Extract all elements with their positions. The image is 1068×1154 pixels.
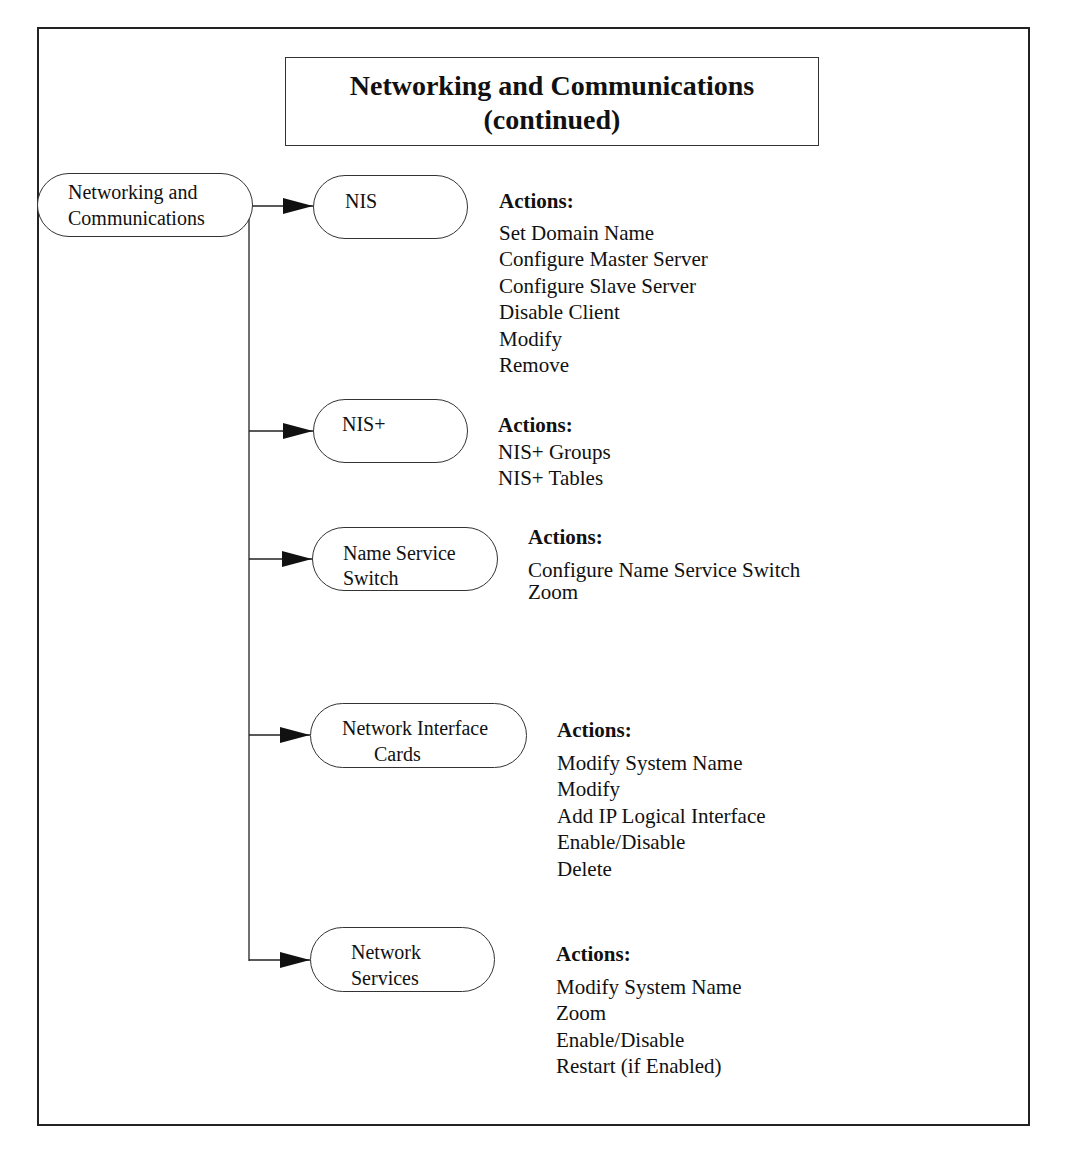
node-label-line-1: Network (351, 940, 421, 965)
action-item: Disable Client (499, 299, 708, 326)
node-label-line-2: Communications (68, 206, 205, 231)
node-networking-and-communications[interactable]: Networking and Communications (37, 173, 253, 237)
action-item: Restart (if Enabled) (556, 1053, 741, 1080)
node-label-line-2: Cards (374, 742, 421, 767)
node-label: NIS (345, 189, 377, 214)
node-label-line-1: Network Interface (342, 716, 488, 741)
node-label-line-1: Name Service (343, 541, 456, 566)
node-name-service-switch[interactable]: Name Service Switch (312, 527, 498, 591)
node-label-line-2: Services (351, 966, 419, 991)
actions-header: Actions: (557, 717, 766, 744)
node-label-line-1: Networking and (68, 180, 197, 205)
actions-header: Actions: (556, 941, 741, 968)
action-item: Add IP Logical Interface (557, 803, 766, 830)
actions-header: Actions: (499, 188, 708, 215)
action-item: Set Domain Name (499, 220, 708, 247)
action-item: Configure Slave Server (499, 273, 708, 300)
action-item: Configure Master Server (499, 246, 708, 273)
action-item: Enable/Disable (557, 829, 766, 856)
node-label-line-2: Switch (343, 566, 399, 591)
actions-nis-plus: Actions: NIS+ Groups NIS+ Tables (498, 412, 611, 492)
actions-name-service-switch: Actions: Configure Name Service Switch Z… (528, 524, 800, 606)
actions-nis: Actions: Set Domain Name Configure Maste… (499, 188, 708, 379)
node-label: NIS+ (342, 412, 386, 437)
action-item: Enable/Disable (556, 1027, 741, 1054)
action-item: Remove (499, 352, 708, 379)
node-network-services[interactable]: Network Services (310, 927, 495, 992)
action-item: Modify (557, 776, 766, 803)
node-nis[interactable]: NIS (313, 175, 468, 239)
actions-network-services: Actions: Modify System Name Zoom Enable/… (556, 941, 741, 1080)
node-nis-plus[interactable]: NIS+ (313, 399, 468, 463)
actions-network-interface-cards: Actions: Modify System Name Modify Add I… (557, 717, 766, 882)
action-item: Zoom (556, 1000, 741, 1027)
action-item: NIS+ Tables (498, 465, 611, 492)
action-item: NIS+ Groups (498, 439, 611, 466)
actions-header: Actions: (498, 412, 611, 439)
action-item: Modify System Name (557, 750, 766, 777)
action-item: Modify System Name (556, 974, 741, 1001)
action-item: Delete (557, 856, 766, 883)
action-item: Modify (499, 326, 708, 353)
actions-header: Actions: (528, 524, 800, 551)
node-network-interface-cards[interactable]: Network Interface Cards (310, 703, 527, 768)
